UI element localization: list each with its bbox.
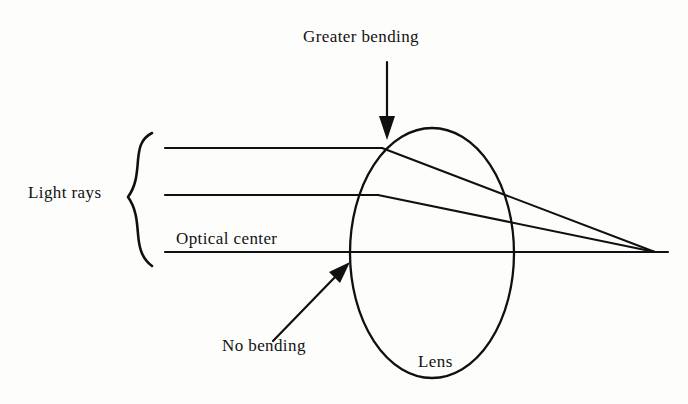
curly-brace-icon [128,133,152,266]
label-lens: Lens [418,353,453,370]
ray-middle-refracted [378,195,655,252]
arrow-up-right-icon-shaft [273,275,337,341]
label-optical-center: Optical center [176,230,277,247]
arrow-down-icon-head [379,116,395,140]
label-light-rays: Light rays [28,184,101,201]
ray-top-refracted [382,148,655,252]
diagram-canvas [0,0,688,404]
lens-refraction-diagram: Greater bending Light rays Optical cente… [0,0,688,404]
label-no-bending: No bending [222,337,306,354]
label-greater-bending: Greater bending [303,28,419,45]
